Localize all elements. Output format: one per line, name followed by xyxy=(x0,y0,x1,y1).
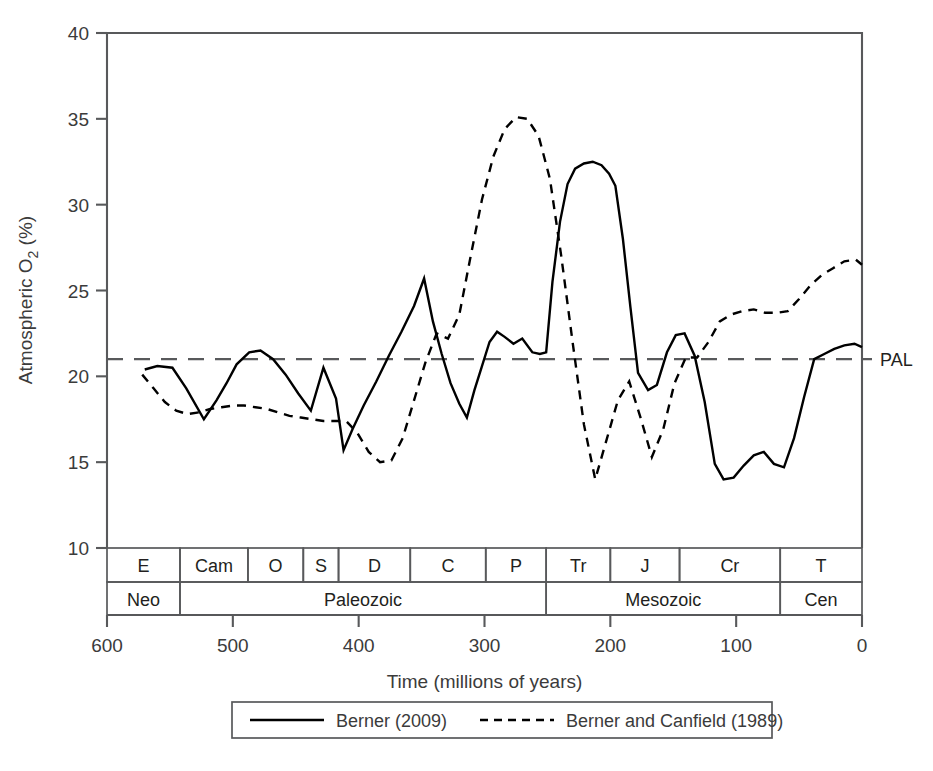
y-tick-label: 40 xyxy=(68,23,89,44)
y-axis: 10152025303540 xyxy=(68,23,107,559)
period-label: J xyxy=(640,556,649,576)
period-label: C xyxy=(442,556,455,576)
y-axis-title-post: (%) xyxy=(15,216,36,251)
x-tick-label: 500 xyxy=(217,635,249,656)
y-axis-title-subscript: 2 xyxy=(25,250,41,258)
y-axis-title: Atmospheric O2 (%) xyxy=(15,216,41,384)
figure-container: 10152025303540 6005004003002001000 PAL E… xyxy=(0,0,933,771)
series-group xyxy=(142,117,862,479)
era-label: Cen xyxy=(805,590,838,610)
period-label: S xyxy=(315,556,327,576)
y-tick-label: 20 xyxy=(68,366,89,387)
x-tick-label: 600 xyxy=(91,635,123,656)
period-label: O xyxy=(269,556,283,576)
x-tick-label: 0 xyxy=(857,635,868,656)
pal-reference-line: PAL xyxy=(107,350,913,370)
era-label: Neo xyxy=(127,590,160,610)
period-label: T xyxy=(816,556,827,576)
series-berner-canfield-1989 xyxy=(142,117,862,479)
series-berner-2009 xyxy=(145,162,862,480)
geologic-time-scale: ECamOSDCPTrJCrTNeoPaleozoicMesozoicCen xyxy=(107,548,862,615)
x-tick-label: 100 xyxy=(720,635,752,656)
svg-text:Atmospheric O2 (%): Atmospheric O2 (%) xyxy=(15,216,41,384)
pal-label: PAL xyxy=(880,350,913,370)
period-label: Cam xyxy=(195,556,233,576)
oxygen-chart: 10152025303540 6005004003002001000 PAL E… xyxy=(0,0,933,771)
chart-legend: Berner (2009)Berner and Canfield (1989) xyxy=(232,702,783,738)
period-label: D xyxy=(368,556,381,576)
x-axis-title: Time (millions of years) xyxy=(387,671,583,692)
y-tick-label: 10 xyxy=(68,538,89,559)
x-tick-label: 200 xyxy=(594,635,626,656)
legend-label-berner-canfield-1989: Berner and Canfield (1989) xyxy=(566,711,783,731)
period-label: E xyxy=(137,556,149,576)
x-tick-label: 300 xyxy=(469,635,501,656)
plot-frame xyxy=(107,33,862,548)
era-label: Mesozoic xyxy=(625,590,701,610)
legend-label-berner-2009: Berner (2009) xyxy=(336,711,447,731)
period-label: P xyxy=(510,556,522,576)
y-axis-title-pre: Atmospheric O xyxy=(15,258,36,384)
x-tick-label: 400 xyxy=(343,635,375,656)
period-label: Tr xyxy=(570,556,586,576)
y-tick-label: 30 xyxy=(68,195,89,216)
y-tick-label: 35 xyxy=(68,109,89,130)
period-label: Cr xyxy=(720,556,739,576)
y-tick-label: 15 xyxy=(68,452,89,473)
era-label: Paleozoic xyxy=(324,590,402,610)
x-axis: 6005004003002001000 xyxy=(91,615,867,656)
axis-frame xyxy=(107,33,862,548)
y-tick-label: 25 xyxy=(68,281,89,302)
